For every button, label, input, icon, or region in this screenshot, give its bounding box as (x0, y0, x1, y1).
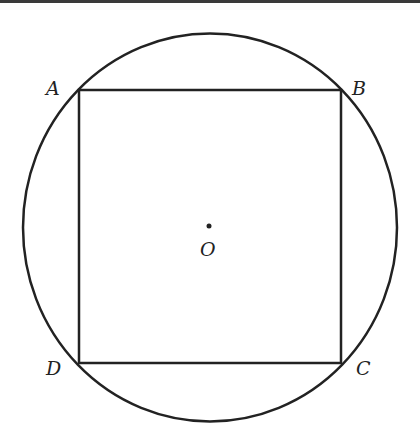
vertex-label-b: B (351, 77, 366, 99)
center-point (207, 224, 212, 229)
geometry-figure: A B C D O (0, 0, 420, 435)
vertex-label-a: A (44, 77, 60, 99)
center-label-o: O (200, 238, 216, 260)
vertex-label-c: C (356, 357, 371, 379)
vertex-label-d: D (45, 357, 61, 379)
